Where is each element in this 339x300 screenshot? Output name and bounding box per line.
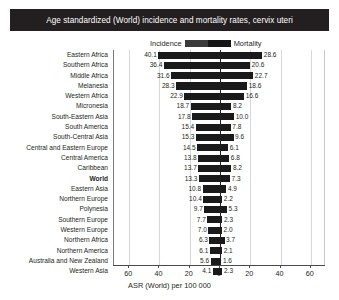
bar-incidence bbox=[203, 196, 219, 203]
value-label-mortality: 2.3 bbox=[224, 266, 233, 276]
value-label-incidence: 13.7 bbox=[184, 163, 197, 173]
bar-group: 10.84.9 bbox=[113, 184, 325, 194]
x-axis-title: ASR (World) per 100 000 bbox=[0, 281, 339, 290]
chart-row: Polynesia9.75.3 bbox=[0, 204, 339, 214]
chart-row: South-Eastern Asia17.810.0 bbox=[0, 112, 339, 122]
value-label-incidence: 4.1 bbox=[202, 266, 211, 276]
value-label-incidence: 10.8 bbox=[189, 184, 202, 194]
legend-swatch-incidence bbox=[185, 40, 208, 47]
category-label: Australia and New Zealand bbox=[0, 256, 108, 266]
bar-group: 14.56.1 bbox=[113, 143, 325, 153]
value-label-mortality: 3.7 bbox=[226, 235, 235, 245]
category-label: Central and Eastern Europe bbox=[0, 143, 108, 153]
value-label-mortality: 28.6 bbox=[264, 50, 277, 60]
page-title: Age standardized (World) incidence and m… bbox=[46, 16, 293, 25]
bar-group: 9.75.3 bbox=[113, 204, 325, 214]
value-label-mortality: 7.3 bbox=[232, 174, 241, 184]
bar-mortality bbox=[219, 72, 253, 79]
bar-incidence bbox=[176, 82, 219, 89]
bar-incidence bbox=[209, 237, 219, 244]
bar-group: 5.61.6 bbox=[113, 256, 325, 266]
chart-row: Caribbean13.78.2 bbox=[0, 163, 339, 173]
value-label-incidence: 15.3 bbox=[182, 132, 195, 142]
category-label: Western Europe bbox=[0, 225, 108, 235]
bar-group: 7.72.3 bbox=[113, 215, 325, 225]
axis-center-line bbox=[220, 50, 221, 265]
value-label-mortality: 8.2 bbox=[233, 101, 242, 111]
value-label-mortality: 18.6 bbox=[249, 81, 262, 91]
category-label: Southern Africa bbox=[0, 60, 108, 70]
category-label: Western Africa bbox=[0, 91, 108, 101]
category-label: South America bbox=[0, 122, 108, 132]
chart-row: South-Central Asia15.39.6 bbox=[0, 132, 339, 142]
chart-row: Eastern Africa40.128.6 bbox=[0, 50, 339, 60]
legend-swatch-mortality bbox=[208, 40, 231, 47]
value-label-incidence: 6.1 bbox=[199, 246, 208, 256]
bar-group: 4.12.3 bbox=[113, 266, 325, 276]
value-label-mortality: 22.7 bbox=[255, 71, 268, 81]
value-label-incidence: 7.0 bbox=[198, 225, 207, 235]
value-label-mortality: 20.6 bbox=[252, 60, 265, 70]
chart-row: Eastern Asia10.84.9 bbox=[0, 184, 339, 194]
value-label-incidence: 10.4 bbox=[189, 194, 202, 204]
bar-group: 13.37.3 bbox=[113, 174, 325, 184]
value-label-mortality: 16.6 bbox=[246, 91, 259, 101]
bar-incidence bbox=[158, 52, 219, 59]
bar-incidence bbox=[207, 216, 219, 223]
category-label: Middle Africa bbox=[0, 71, 108, 81]
value-label-mortality: 10.0 bbox=[236, 112, 249, 122]
value-label-mortality: 2.3 bbox=[224, 215, 233, 225]
chart-row: Western Africa22.916.6 bbox=[0, 91, 339, 101]
chart-row: Western Asia4.12.3 bbox=[0, 266, 339, 276]
bar-group: 7.02.0 bbox=[113, 225, 325, 235]
category-label: South-Central Asia bbox=[0, 132, 108, 142]
value-label-incidence: 5.6 bbox=[200, 256, 209, 266]
chart-row: Northern Africa6.33.7 bbox=[0, 235, 339, 245]
bar-incidence bbox=[198, 165, 219, 172]
bar-incidence bbox=[191, 103, 219, 110]
chart-legend: Incidence Mortality bbox=[150, 38, 262, 49]
chart-row: Central and Eastern Europe14.56.1 bbox=[0, 143, 339, 153]
legend-label-mortality: Mortality bbox=[234, 39, 262, 48]
bar-incidence bbox=[210, 247, 219, 254]
category-label: Eastern Africa bbox=[0, 50, 108, 60]
bar-incidence bbox=[196, 124, 219, 131]
bar-incidence bbox=[203, 185, 219, 192]
value-label-mortality: 8.2 bbox=[233, 163, 242, 173]
chart-row: Southern Africa36.420.6 bbox=[0, 60, 339, 70]
bar-group: 13.86.8 bbox=[113, 153, 325, 163]
bar-mortality bbox=[219, 93, 244, 100]
chart-page: Age standardized (World) incidence and m… bbox=[0, 0, 339, 300]
bar-group: 40.128.6 bbox=[113, 50, 325, 60]
value-label-mortality: 2.0 bbox=[224, 225, 233, 235]
bar-group: 18.78.2 bbox=[113, 101, 325, 111]
value-label-incidence: 13.8 bbox=[184, 153, 197, 163]
category-label: Polynesia bbox=[0, 204, 108, 214]
value-label-incidence: 28.3 bbox=[162, 81, 175, 91]
bar-incidence bbox=[208, 227, 219, 234]
chart-row: South America15.47.8 bbox=[0, 122, 339, 132]
chart-row: Central America13.86.8 bbox=[0, 153, 339, 163]
category-label: Micronesia bbox=[0, 101, 108, 111]
value-label-incidence: 40.1 bbox=[144, 50, 157, 60]
bar-incidence bbox=[164, 62, 219, 69]
value-label-incidence: 6.3 bbox=[199, 235, 208, 245]
chart-row: Australia and New Zealand5.61.6 bbox=[0, 256, 339, 266]
category-label: Caribbean bbox=[0, 163, 108, 173]
legend-label-incidence: Incidence bbox=[150, 39, 182, 48]
value-label-mortality: 6.8 bbox=[231, 153, 240, 163]
value-label-incidence: 15.4 bbox=[182, 122, 195, 132]
category-label: Northern Europe bbox=[0, 194, 108, 204]
category-label: World bbox=[0, 174, 108, 184]
bar-incidence bbox=[192, 113, 219, 120]
value-label-mortality: 2.2 bbox=[224, 194, 233, 204]
value-label-mortality: 6.1 bbox=[230, 143, 239, 153]
category-label: Southern Europe bbox=[0, 215, 108, 225]
value-label-mortality: 9.6 bbox=[235, 132, 244, 142]
bar-group: 36.420.6 bbox=[113, 60, 325, 70]
chart-row: Micronesia18.78.2 bbox=[0, 101, 339, 111]
bar-mortality bbox=[219, 62, 250, 69]
bar-mortality bbox=[219, 82, 247, 89]
chart-rows: Eastern Africa40.128.6Southern Africa36.… bbox=[0, 50, 339, 277]
value-label-mortality: 5.3 bbox=[229, 204, 238, 214]
